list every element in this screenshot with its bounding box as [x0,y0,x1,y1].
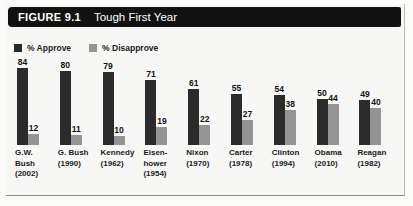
x-axis-label-line: Kennedy [101,148,142,159]
chart-legend: % Approve% Disapprove [14,42,158,54]
figure-number: FIGURE 9.1 [18,11,81,23]
bar-value-label: 22 [200,114,209,124]
x-axis-label: G. Bush(1990) [57,148,99,169]
bar-value-label: 79 [103,61,112,71]
bar-approve: 50 [317,99,328,145]
x-axis-label-line: (2010) [315,159,356,170]
x-axis-label: Nixon(1970) [185,148,227,169]
bar-disapprove: 11 [71,135,82,145]
x-axis-label-line: G.W. [15,148,56,159]
x-axis-label-line: (1982) [357,159,398,170]
bar-value-label: 44 [328,93,337,103]
legend-label: % Approve [27,43,71,53]
x-axis-label-line: Bush [15,159,56,170]
bar-pair: 7910 [103,62,125,145]
bar-value-label: 19 [157,116,166,126]
square-swatch-icon [89,44,97,52]
bar-value-label: 50 [317,88,326,98]
bar-value-label: 80 [61,60,70,70]
bar-disapprove: 10 [114,136,125,145]
x-axis-label: Reagan(1982) [356,148,398,169]
bar-approve: 80 [60,71,71,145]
x-axis-label-line: Nixon [186,148,227,159]
x-axis-label-line: G. Bush [58,148,99,159]
bar-value-label: 49 [360,89,369,99]
x-axis-label-line: (1954) [143,169,184,180]
bar-group: 6122 [185,62,227,145]
x-axis-label-line: (1978) [229,159,270,170]
bar-value-label: 61 [189,78,198,88]
bar-disapprove: 38 [285,110,296,145]
bar-approve: 49 [359,100,370,145]
x-axis-label-line: (1970) [186,159,227,170]
x-axis-label-line: hower [143,159,184,170]
bar-value-label: 38 [286,99,295,109]
bar-pair: 6122 [188,62,210,145]
x-axis-label: Kennedy(1962) [100,148,142,169]
x-axis-label-line: (1990) [58,159,99,170]
bar-approve: 71 [145,80,156,145]
x-axis-label-line: (2002) [15,169,56,180]
bar-value-label: 84 [18,57,27,67]
x-axis-label-line: Clinton [272,148,313,159]
figure-title: Tough First Year [94,11,177,23]
bar-pair: 4940 [359,62,381,145]
bar-pair: 8412 [17,62,39,145]
x-axis-label: Clinton(1994) [271,148,313,169]
chart-x-axis-labels: G.W.Bush(2002)G. Bush(1990)Kennedy(1962)… [14,148,399,192]
x-axis-label-line: Eisen- [143,148,184,159]
bar-pair: 5527 [231,62,253,145]
bar-group: 8011 [57,62,99,145]
x-axis-label: Carter(1978) [228,148,270,169]
bar-value-label: 40 [371,97,380,107]
bar-approve: 79 [103,72,114,145]
bar-pair: 8011 [60,62,82,145]
x-axis-label-line: (1994) [272,159,313,170]
bar-pair: 5044 [317,62,339,145]
chart-plot-area: 841280117910711961225527543850444940 [14,62,399,145]
x-axis-label-line: Carter [229,148,270,159]
bar-value-label: 55 [232,83,241,93]
bar-disapprove: 40 [370,108,381,145]
bar-disapprove: 12 [28,134,39,145]
bar-disapprove: 22 [199,125,210,145]
x-axis-label-line: Obama [315,148,356,159]
x-axis-label: Eisen-hower(1954) [142,148,184,180]
figure-container: FIGURE 9.1 Tough First Year % Approve% D… [0,0,413,206]
bar-value-label: 27 [243,109,252,119]
bar-approve: 84 [17,68,28,145]
bar-value-label: 11 [72,124,81,134]
bar-pair: 5438 [274,62,296,145]
x-axis-label: Obama(2010) [314,148,356,169]
bar-group: 5044 [314,62,356,145]
bar-disapprove: 44 [328,104,339,145]
bar-value-label: 54 [275,84,284,94]
legend-label: % Disapprove [102,43,158,53]
legend-item: % Disapprove [89,43,158,53]
bar-value-label: 71 [146,69,155,79]
bar-group: 7119 [142,62,184,145]
bar-approve: 54 [274,95,285,145]
x-axis-label-line: Reagan [357,148,398,159]
x-axis-label-line: (1962) [101,159,142,170]
bar-value-label: 10 [114,125,123,135]
figure-title-bar: FIGURE 9.1 Tough First Year [8,7,401,27]
bar-approve: 55 [231,94,242,145]
bar-group: 7910 [100,62,142,145]
square-swatch-icon [14,44,22,52]
bar-pair: 7119 [145,62,167,145]
bar-group: 8412 [14,62,56,145]
legend-item: % Approve [14,43,71,53]
bar-value-label: 12 [29,123,38,133]
bar-disapprove: 27 [242,120,253,145]
bar-group: 5438 [271,62,313,145]
bar-approve: 61 [188,89,199,145]
bar-group: 5527 [228,62,270,145]
bar-disapprove: 19 [156,127,167,145]
x-axis-label: G.W.Bush(2002) [14,148,56,180]
bar-group: 4940 [356,62,398,145]
